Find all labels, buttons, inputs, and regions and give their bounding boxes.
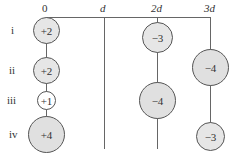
axis-line xyxy=(46,17,211,18)
row-label-iv: iv xyxy=(9,129,18,140)
vertical-line-d xyxy=(104,17,105,149)
charge-i-2d: −3 xyxy=(142,22,173,53)
row-label-iii: iii xyxy=(7,95,16,106)
charge-ii-3d: −4 xyxy=(192,49,229,86)
axis-label-2d: 2d xyxy=(151,3,162,14)
charge-iv-3d: −3 xyxy=(196,122,225,151)
charge-iii-0: +1 xyxy=(37,91,56,110)
row-label-ii: ii xyxy=(9,65,15,76)
row-label-i: i xyxy=(11,25,14,36)
charge-iv-0: +4 xyxy=(28,116,65,153)
charge-ii-0: +2 xyxy=(33,57,60,84)
axis-label-3d: 3d xyxy=(204,3,215,14)
axis-label-d: d xyxy=(100,3,106,14)
charge-i-0: +2 xyxy=(33,17,60,44)
charge-iii-2d: −4 xyxy=(139,82,176,119)
axis-label-0: 0 xyxy=(42,3,48,14)
